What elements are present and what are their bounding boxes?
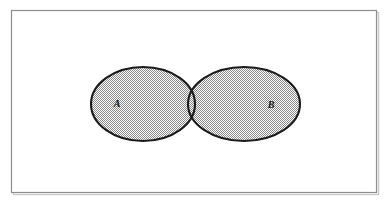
set-b-label: B <box>267 99 275 110</box>
venn-diagram-figure: A B <box>0 0 389 204</box>
venn-diagram-canvas: A B <box>0 0 389 204</box>
set-a-label: A <box>113 98 121 109</box>
